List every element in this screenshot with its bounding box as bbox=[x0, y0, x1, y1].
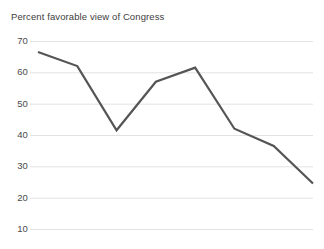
y-tick-label-40: 40 bbox=[8, 130, 28, 140]
line-chart-svg bbox=[0, 0, 324, 249]
chart-container: Percent favorable view of Congress 70605… bbox=[0, 0, 324, 249]
y-tick-label-20: 20 bbox=[8, 193, 28, 203]
y-tick-label-50: 50 bbox=[8, 99, 28, 109]
data-series-group bbox=[38, 52, 313, 184]
y-tick-label-70: 70 bbox=[8, 36, 28, 46]
y-tick-label-30: 30 bbox=[8, 161, 28, 171]
y-tick-label-10: 10 bbox=[8, 224, 28, 234]
plot-area bbox=[0, 0, 324, 249]
series-line-0 bbox=[38, 52, 313, 184]
y-tick-label-60: 60 bbox=[8, 67, 28, 77]
gridlines-group bbox=[30, 42, 313, 230]
